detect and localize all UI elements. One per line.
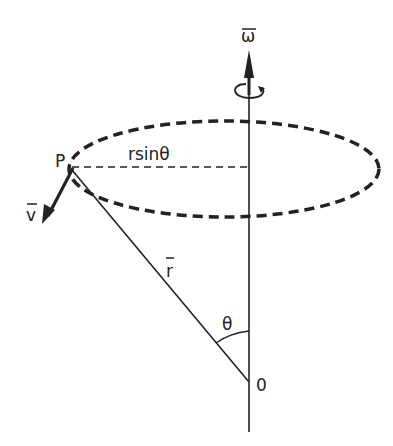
origin-label: 0 xyxy=(256,375,267,395)
position-vector xyxy=(72,170,249,382)
point-label: P xyxy=(55,151,65,171)
rotation-path xyxy=(69,121,379,217)
position-label: r xyxy=(166,261,173,281)
velocity-label: v xyxy=(26,205,36,225)
rotation-diagram: ω P v rsinθ r θ 0 xyxy=(0,0,393,446)
radius-expression-label: rsinθ xyxy=(128,144,170,164)
angle-label: θ xyxy=(222,314,232,334)
angle-arc xyxy=(216,331,249,343)
